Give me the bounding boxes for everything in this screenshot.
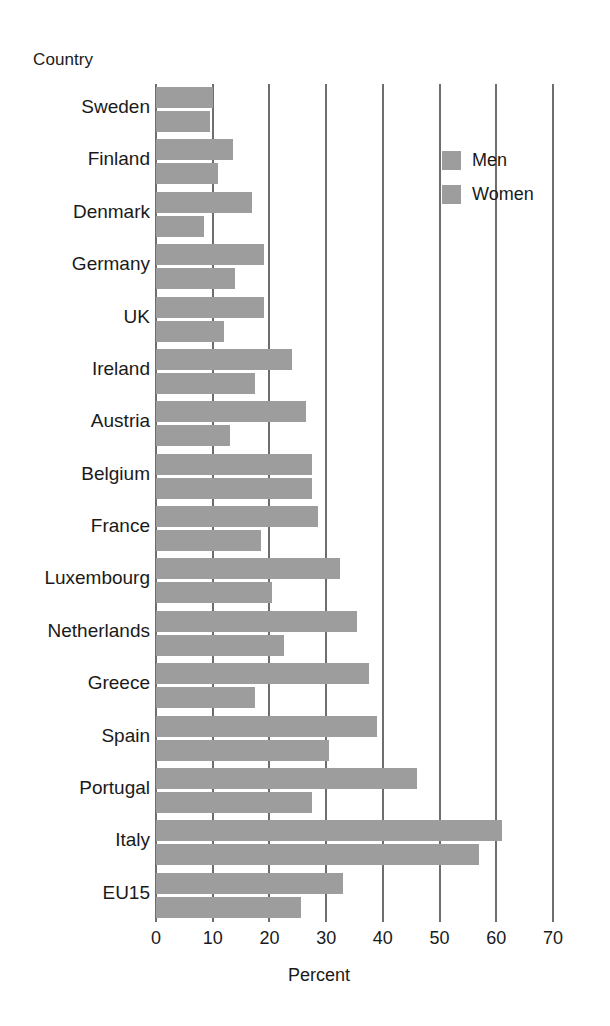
bar-men-denmark — [156, 192, 252, 213]
bar-women-germany — [156, 268, 235, 289]
chart-legend: MenWomen — [442, 146, 534, 214]
bar-chart: Country SwedenFinlandDenmarkGermanyUKIre… — [0, 0, 610, 1026]
bar-men-greece — [156, 663, 369, 684]
bar-men-germany — [156, 244, 264, 265]
chart-row: Spain — [156, 713, 553, 765]
chart-row: Austria — [156, 398, 553, 450]
bar-men-sweden — [156, 87, 213, 108]
chart-row: Greece — [156, 660, 553, 712]
category-label-luxembourg: Luxembourg — [0, 567, 150, 589]
bar-men-portugal — [156, 768, 417, 789]
bar-women-luxembourg — [156, 582, 272, 603]
bar-women-greece — [156, 687, 255, 708]
legend-item-men: Men — [442, 146, 534, 174]
category-label-italy: Italy — [0, 829, 150, 851]
bar-women-finland — [156, 163, 218, 184]
category-label-ireland: Ireland — [0, 358, 150, 380]
chart-row: Luxembourg — [156, 555, 553, 607]
chart-row: Italy — [156, 817, 553, 869]
category-label-netherlands: Netherlands — [0, 620, 150, 642]
category-label-greece: Greece — [0, 672, 150, 694]
category-label-sweden: Sweden — [0, 96, 150, 118]
x-tick-30: 30 — [306, 928, 346, 949]
legend-label-women: Women — [472, 185, 534, 203]
chart-row: Portugal — [156, 765, 553, 817]
legend-swatch-women — [442, 185, 461, 204]
x-tick-60: 60 — [476, 928, 516, 949]
bar-women-sweden — [156, 111, 210, 132]
x-axis-title: Percent — [0, 965, 610, 986]
bar-women-italy — [156, 844, 479, 865]
bar-men-spain — [156, 716, 377, 737]
bar-men-ireland — [156, 349, 292, 370]
bar-men-luxembourg — [156, 558, 340, 579]
bar-men-france — [156, 506, 318, 527]
x-tick-10: 10 — [193, 928, 233, 949]
bar-women-denmark — [156, 216, 204, 237]
category-label-belgium: Belgium — [0, 463, 150, 485]
category-label-portugal: Portugal — [0, 777, 150, 799]
chart-row: EU15 — [156, 870, 553, 922]
category-label-denmark: Denmark — [0, 201, 150, 223]
x-tick-0: 0 — [136, 928, 176, 949]
category-label-france: France — [0, 515, 150, 537]
chart-row: Ireland — [156, 346, 553, 398]
bar-women-ireland — [156, 373, 255, 394]
bar-men-netherlands — [156, 611, 357, 632]
bar-men-belgium — [156, 454, 312, 475]
bar-men-austria — [156, 401, 306, 422]
x-tick-50: 50 — [420, 928, 460, 949]
bar-women-eu15 — [156, 897, 301, 918]
bar-women-france — [156, 530, 261, 551]
bar-men-uk — [156, 297, 264, 318]
category-label-uk: UK — [0, 306, 150, 328]
category-label-germany: Germany — [0, 253, 150, 275]
chart-row: France — [156, 503, 553, 555]
bar-women-belgium — [156, 478, 312, 499]
x-tick-70: 70 — [533, 928, 573, 949]
bar-men-italy — [156, 820, 502, 841]
bar-women-austria — [156, 425, 230, 446]
x-tick-40: 40 — [363, 928, 403, 949]
category-label-austria: Austria — [0, 410, 150, 432]
legend-item-women: Women — [442, 180, 534, 208]
category-label-spain: Spain — [0, 725, 150, 747]
chart-row: UK — [156, 294, 553, 346]
legend-swatch-men — [442, 151, 461, 170]
category-label-eu15: EU15 — [0, 882, 150, 904]
bar-women-portugal — [156, 792, 312, 813]
chart-row: Sweden — [156, 84, 553, 136]
bar-men-finland — [156, 139, 233, 160]
bar-men-eu15 — [156, 873, 343, 894]
x-axis-title-text: Percent — [288, 965, 350, 985]
chart-row: Netherlands — [156, 608, 553, 660]
legend-label-men: Men — [472, 151, 507, 169]
category-label-finland: Finland — [0, 148, 150, 170]
y-axis-title: Country — [33, 50, 93, 70]
chart-row: Belgium — [156, 451, 553, 503]
bar-women-uk — [156, 321, 224, 342]
chart-row: Germany — [156, 241, 553, 293]
x-axis-tick-labels: 010203040506070 — [156, 928, 553, 958]
bar-women-spain — [156, 740, 329, 761]
bar-women-netherlands — [156, 635, 284, 656]
x-tick-20: 20 — [249, 928, 289, 949]
